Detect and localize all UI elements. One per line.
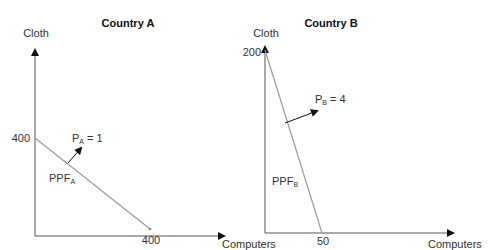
panel-a-y-axis-label: Cloth: [23, 27, 49, 39]
panel-b-title: Country B: [304, 17, 357, 29]
panel-b-price-arrow-icon: [285, 111, 317, 123]
panel-a-x-axis-label: Computers: [222, 238, 276, 250]
panel-a-title: Country A: [102, 17, 155, 29]
panel-b-y-tick: 200: [243, 46, 261, 58]
panel-country-b: Country B Cloth 200 50 Computers PB = 4 …: [243, 17, 483, 250]
panel-a-ppf-label: PPFA: [49, 172, 75, 185]
panel-a-ppf-x-intercept: [149, 228, 152, 231]
ppf-diagram: Country A Cloth 400 400 Computers PA = 1…: [0, 0, 488, 250]
panel-b-price-label: PB = 4: [315, 93, 346, 106]
panel-a-y-tick: 400: [12, 132, 30, 144]
panel-b-ppf-label: PPFB: [272, 175, 298, 188]
panel-b-y-axis-label: Cloth: [253, 27, 279, 39]
panel-a-price-arrow-icon: [68, 148, 81, 163]
panel-country-a: Country A Cloth 400 400 Computers PA = 1…: [12, 17, 277, 250]
panel-a-price-label: PA = 1: [72, 132, 103, 145]
panel-b-x-axis-label: Computers: [428, 238, 482, 250]
panel-b-ppf-line: [265, 50, 322, 233]
panel-b-x-tick: 50: [317, 235, 329, 247]
panel-a-x-tick: 400: [142, 234, 160, 246]
